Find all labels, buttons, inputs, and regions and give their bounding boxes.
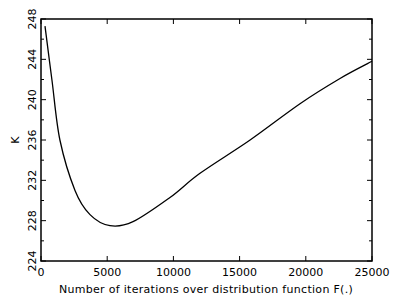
y-tick-label: 232 xyxy=(26,170,39,191)
line-chart: 0500010000150002000025000 22422823223624… xyxy=(0,0,397,300)
y-tick-label: 228 xyxy=(26,210,39,231)
x-axis-title: Number of iterations over distribution f… xyxy=(59,283,353,296)
x-tick-label: 5000 xyxy=(93,266,121,279)
plot-border xyxy=(41,19,372,261)
y-tick-label: 224 xyxy=(26,251,39,272)
y-tick-label: 248 xyxy=(26,9,39,30)
y-axis-title: K xyxy=(9,136,22,144)
y-tick-label: 244 xyxy=(26,49,39,70)
x-tick-label: 15000 xyxy=(222,266,257,279)
y-tick-label: 236 xyxy=(26,130,39,151)
x-tick-labels: 0500010000150002000025000 xyxy=(38,266,390,279)
x-tick-label: 10000 xyxy=(156,266,191,279)
x-tick-label: 25000 xyxy=(355,266,390,279)
data-line-k xyxy=(45,26,372,226)
y-tick-labels: 224228232236240244248 xyxy=(26,9,39,272)
x-tick-label: 20000 xyxy=(288,266,323,279)
plot-frame xyxy=(41,19,372,261)
axis-ticks xyxy=(41,19,372,261)
y-tick-label: 240 xyxy=(26,89,39,110)
